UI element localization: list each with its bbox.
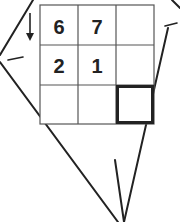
kite-spine <box>115 160 124 222</box>
arrow-down-icon <box>26 13 34 41</box>
kite-edge-top-left <box>0 0 33 55</box>
grid-cell-r0c0: 6 <box>40 8 78 46</box>
grid-cell-r1c1: 1 <box>78 47 116 85</box>
kite-edge-top-right <box>172 0 180 8</box>
right-tick-mark <box>165 23 177 26</box>
grid-cell-r1c0: 2 <box>40 47 78 85</box>
left-tick-mark <box>8 57 23 60</box>
grid-cell-r0c1: 7 <box>78 8 116 46</box>
